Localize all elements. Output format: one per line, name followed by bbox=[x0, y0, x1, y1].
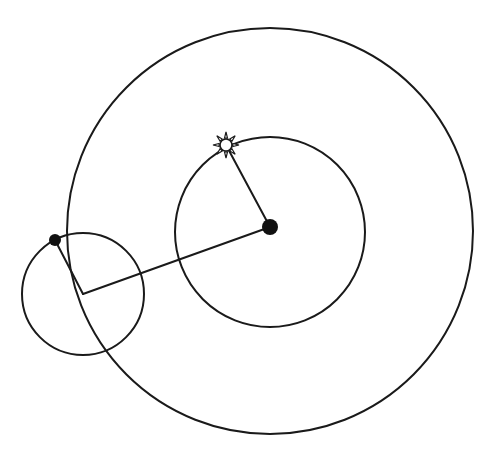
central-to-sun-line bbox=[226, 145, 270, 227]
epicycle-diagram bbox=[0, 0, 484, 455]
planet-to-epicycle-center-line bbox=[55, 240, 83, 294]
sun-ray bbox=[213, 143, 219, 146]
sun-ray bbox=[233, 143, 239, 146]
sun-icon bbox=[213, 132, 239, 158]
sun-core bbox=[220, 139, 232, 151]
orbit-circles bbox=[22, 28, 473, 434]
planet-dot bbox=[49, 234, 61, 246]
central-body-dot bbox=[262, 219, 278, 235]
connecting-lines bbox=[55, 145, 270, 294]
sun-ray bbox=[224, 152, 227, 158]
central-to-epicycle-center-line bbox=[83, 227, 270, 294]
sun-ray bbox=[224, 132, 227, 138]
